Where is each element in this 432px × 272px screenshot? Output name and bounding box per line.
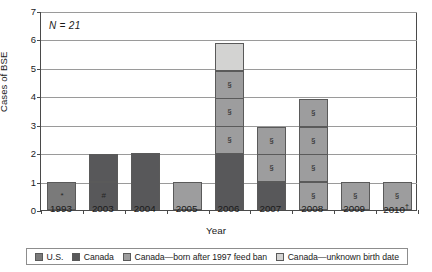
- legend-label: Canada—unknown birth date: [288, 252, 399, 262]
- legend-item-0[interactable]: U.S.: [35, 252, 63, 262]
- bar-2008[interactable]: §§§§: [299, 100, 328, 210]
- bar-slot-2009: §: [334, 12, 376, 210]
- y-axis-label: Cases of BSE: [0, 52, 9, 112]
- legend-swatch-icon: [35, 253, 43, 261]
- bar-segment: §: [299, 154, 328, 182]
- bse-cases-chart: Cases of BSE 01234567 N = 21 *#§§§§§§§§§…: [0, 0, 432, 272]
- bar-slot-2004: [125, 12, 167, 210]
- bar-segment: §: [215, 98, 244, 126]
- plot-area: 01234567 N = 21 *#§§§§§§§§§§§: [40, 12, 417, 211]
- bar-2004[interactable]: [131, 154, 160, 210]
- legend-label: Canada—born after 1997 feed ban: [134, 252, 267, 262]
- legend-swatch-icon: [72, 253, 80, 261]
- x-tick-label-2010: 2010†: [368, 203, 424, 215]
- legend-item-2[interactable]: Canada—born after 1997 feed ban: [123, 252, 267, 262]
- bar-slot-2006: §§§: [209, 12, 251, 210]
- bar-series-container: *#§§§§§§§§§§§: [41, 12, 417, 210]
- bar-segment: §: [215, 71, 244, 99]
- legend-swatch-icon: [123, 253, 131, 261]
- bar-2003[interactable]: #: [89, 155, 118, 210]
- bar-segment: §: [299, 127, 328, 155]
- bar-segment: §: [215, 126, 244, 154]
- x-axis-label: Year: [0, 225, 432, 236]
- bar-slot-2005: [167, 12, 209, 210]
- bar-segment: §: [257, 127, 286, 155]
- bar-slot-2010: §: [376, 12, 418, 210]
- bar-slot-2007: §§: [250, 12, 292, 210]
- bar-slot-2008: §§§§: [292, 12, 334, 210]
- legend-item-3[interactable]: Canada—unknown birth date: [276, 252, 399, 262]
- bar-2006[interactable]: §§§: [215, 44, 244, 210]
- bar-2007[interactable]: §§: [257, 127, 286, 210]
- bar-segment: §: [299, 99, 328, 127]
- legend-item-1[interactable]: Canada: [72, 252, 114, 262]
- bar-segment: [89, 154, 118, 182]
- legend-label: Canada: [84, 252, 114, 262]
- legend-label: U.S.: [47, 252, 64, 262]
- bar-slot-1993: *: [41, 12, 83, 210]
- bar-segment: [215, 153, 244, 210]
- bar-segment: [215, 43, 244, 71]
- chart-legend: U.S.CanadaCanada—born after 1997 feed ba…: [26, 248, 408, 265]
- bar-slot-2003: #: [83, 12, 125, 210]
- bar-segment: §: [257, 154, 286, 182]
- bar-segment: [131, 153, 160, 210]
- legend-swatch-icon: [276, 253, 284, 261]
